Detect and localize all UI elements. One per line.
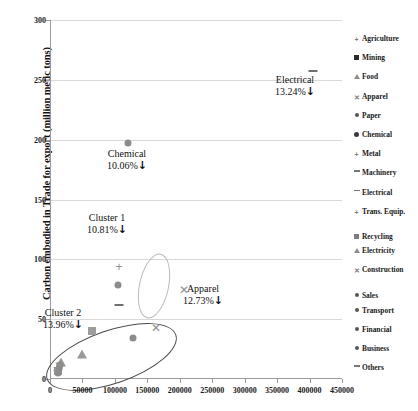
legend-label: Sales: [362, 291, 378, 300]
legend-item-food[interactable]: Food: [352, 72, 418, 91]
annotation-label: Cluster 2: [18, 307, 108, 319]
point-transport: [130, 335, 137, 342]
legend-item-business[interactable]: Business: [352, 344, 418, 363]
annotation-label: Cluster 1: [62, 212, 152, 224]
triangle-marker-icon: [352, 246, 361, 253]
down-arrow-icon: ↓: [138, 159, 147, 172]
gridline: [51, 20, 342, 21]
dot-marker-icon: [352, 325, 361, 331]
x-tick-mark: [245, 379, 246, 383]
legend-item-trans-equip[interactable]: + Trans. Equip.: [352, 207, 418, 232]
legend-item-chemical[interactable]: Chemical: [352, 130, 418, 149]
legend-item-construction[interactable]: ✕ Construction: [352, 265, 418, 291]
down-arrow-icon: ↓: [214, 294, 223, 307]
annotation-value: 12.73%: [183, 295, 214, 307]
y-tick-label: 300: [6, 16, 46, 25]
plus-marker-icon: +: [352, 207, 361, 216]
legend-label: Food: [362, 72, 378, 81]
y-tick-label: 100: [6, 255, 46, 264]
annotation-cluster-2: Cluster 2 13.96%↓: [18, 307, 108, 332]
dash-marker-icon: [352, 168, 361, 172]
legend-item-metal[interactable]: + Metal: [352, 149, 418, 168]
point-machinery: [114, 304, 123, 306]
down-arrow-icon: ↓: [74, 318, 83, 331]
dot-marker-icon: [352, 344, 361, 350]
point-trans-equip: +: [53, 365, 60, 377]
point-chemical: [124, 140, 131, 147]
point-food: [77, 349, 87, 358]
legend-item-agriculture[interactable]: + Agriculture: [352, 34, 418, 53]
point-electrical: [309, 70, 318, 72]
dot-marker-icon: [352, 111, 361, 117]
legend-label: Apparel: [362, 92, 388, 101]
legend-label: Machinery: [362, 168, 396, 177]
x-tick-label: 50000: [72, 386, 92, 395]
y-tick-label: 0: [6, 375, 46, 384]
chart-legend: + Agriculture Mining Food ✕ Apparel Pape…: [352, 34, 418, 383]
legend-label: Chemical: [362, 130, 392, 139]
legend-item-others[interactable]: Others: [352, 363, 418, 382]
x-tick-label: 100000: [103, 386, 127, 395]
legend-label: Electrical: [362, 188, 392, 197]
point-metal: +: [115, 261, 122, 273]
legend-label: Business: [362, 344, 389, 353]
annotation-label: Chemical: [82, 148, 172, 160]
x-tick-mark: [342, 379, 343, 383]
square-marker-icon: [352, 53, 361, 60]
x-tick-mark: [147, 379, 148, 383]
dot-marker-icon: [352, 291, 361, 297]
y-tick-label: 250: [6, 75, 46, 84]
legend-label: Electricity: [362, 246, 395, 255]
legend-item-mining[interactable]: Mining: [352, 53, 418, 72]
dash-marker-icon: [352, 188, 361, 192]
x-tick-label: 200000: [168, 386, 192, 395]
legend-item-sales[interactable]: Sales: [352, 291, 418, 306]
annotation-label: Electrical: [250, 74, 340, 86]
dash-marker-icon: [352, 363, 361, 367]
legend-label: Metal: [362, 149, 380, 158]
legend-item-electricity[interactable]: Electricity: [352, 246, 418, 265]
triangle-marker-icon: [352, 72, 361, 79]
legend-label: Construction: [362, 265, 403, 274]
annotation-label: Apparel: [158, 283, 248, 295]
legend-item-apparel[interactable]: ✕ Apparel: [352, 92, 418, 111]
x-tick-mark: [310, 379, 311, 383]
x-tick-mark: [277, 379, 278, 383]
legend-label: Transport: [362, 306, 394, 315]
plus-marker-icon: +: [352, 149, 361, 158]
legend-item-electrical[interactable]: Electrical: [352, 188, 418, 207]
y-tick-label: 200: [6, 135, 46, 144]
legend-item-transport[interactable]: Transport: [352, 306, 418, 325]
gridline: [51, 259, 342, 260]
x-tick-label: 250000: [200, 386, 224, 395]
legend-label: Financial: [362, 325, 392, 334]
gridline: [51, 140, 342, 141]
legend-label: Trans. Equip.: [362, 207, 405, 216]
x-tick-label: 150000: [135, 386, 159, 395]
annotation-cluster-1: Cluster 1 10.81%↓: [62, 212, 152, 237]
legend-label: Others: [362, 363, 384, 372]
legend-item-financial[interactable]: Financial: [352, 325, 418, 344]
down-arrow-icon: ↓: [118, 223, 127, 236]
square-marker-icon: [352, 232, 361, 239]
annotation-value: 13.24%: [275, 86, 306, 98]
x-tick-mark: [82, 379, 83, 383]
legend-item-paper[interactable]: Paper: [352, 111, 418, 130]
x-tick-mark: [212, 379, 213, 383]
down-arrow-icon: ↓: [306, 85, 315, 98]
slash-marker-icon: ✕: [352, 92, 361, 101]
x-tick-label: 400000: [298, 386, 322, 395]
annotation-value: 10.81%: [87, 224, 118, 236]
x-tick-mark: [180, 379, 181, 383]
dot-marker-icon: [352, 306, 361, 312]
point-sales: [115, 282, 122, 289]
x-tick-mark: [50, 379, 51, 383]
x-tick-label: 350000: [265, 386, 289, 395]
gridline: [51, 200, 342, 201]
legend-item-recycling[interactable]: Recycling: [352, 232, 418, 246]
x-tick-label: 0: [48, 386, 52, 395]
x-tick-label: 450000: [330, 386, 354, 395]
legend-item-machinery[interactable]: Machinery: [352, 168, 418, 187]
annotation-electrical: Electrical 13.24%↓: [250, 74, 340, 99]
legend-label: Agriculture: [362, 34, 399, 43]
